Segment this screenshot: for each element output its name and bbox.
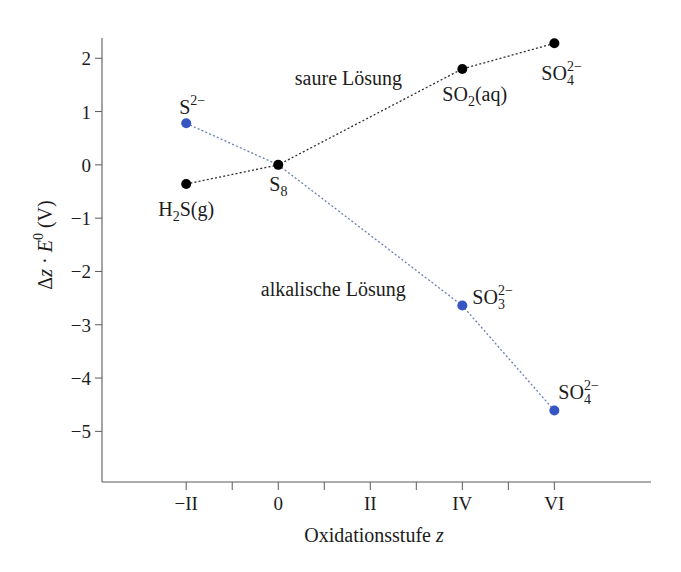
x-tick-label: VI <box>544 493 564 514</box>
point-label-so42: SO42− <box>558 378 599 407</box>
frost-diagram-chart: 210−1−2−3−4−5−II0IIIVVI H2S(g)S8SO2(aq)S… <box>0 0 681 572</box>
x-tick-label: II <box>364 493 377 514</box>
data-point-so42 <box>549 406 559 416</box>
y-tick-label: 1 <box>82 102 92 123</box>
annotation-saure-loesung: saure Lösung <box>295 67 402 90</box>
point-label-so32: SO32− <box>472 283 513 312</box>
x-axis-title: Oxidationsstufe z <box>304 524 444 546</box>
y-tick-label: −2 <box>71 261 91 282</box>
x-tick-label: −II <box>175 493 198 514</box>
annotation-alkalische-loesung: alkalische Lösung <box>261 278 406 301</box>
y-tick-label: 2 <box>82 48 92 69</box>
point-label-s8: S8 <box>269 173 287 199</box>
data-point-so32 <box>457 301 467 311</box>
x-tick-label: 0 <box>274 493 284 514</box>
y-tick-label: 0 <box>82 155 92 176</box>
y-axis-title: Δz · E0 (V) <box>31 200 57 289</box>
y-tick-label: −5 <box>71 421 91 442</box>
point-label-so42: SO42− <box>541 59 582 88</box>
data-point-so42 <box>549 38 559 48</box>
axes: 210−1−2−3−4−5−II0IIIVVI <box>71 38 651 514</box>
y-tick-label: −1 <box>71 208 91 229</box>
series-line-alkalische-lo-sung <box>186 123 554 410</box>
data-point-s2 <box>181 118 191 128</box>
point-label-so2-aq: SO2(aq) <box>442 83 507 109</box>
data-point-h2s-g <box>181 179 191 189</box>
point-label-s2: S2− <box>179 93 205 118</box>
y-tick-label: −4 <box>71 368 92 389</box>
point-labels: H2S(g)S8SO2(aq)SO42−S2−SO32−SO42− <box>158 59 599 406</box>
data-point-s8 <box>273 160 283 170</box>
y-tick-label: −3 <box>71 315 91 336</box>
point-label-h2s-g: H2S(g) <box>158 198 214 224</box>
series-line-saure-lo-sung <box>186 43 554 184</box>
x-tick-label: IV <box>452 493 472 514</box>
data-point-so2-aq <box>457 64 467 74</box>
